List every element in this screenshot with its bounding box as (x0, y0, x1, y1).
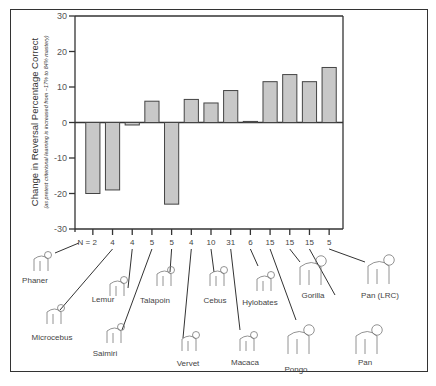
n-label: 5 (150, 238, 155, 247)
primate-icon (182, 332, 200, 352)
n-label: 10 (207, 238, 216, 247)
y-tick-label: 30 (57, 11, 67, 21)
n-label: 4 (189, 238, 194, 247)
n-label: 15 (305, 238, 314, 247)
species-label: Pan (LRC) (361, 291, 399, 300)
n-label: 31 (226, 238, 235, 247)
bar-talapoin (165, 123, 179, 205)
leader-line (211, 249, 214, 272)
primate-icon (356, 325, 382, 354)
bar-pan (302, 82, 316, 123)
primate-icon (240, 332, 258, 352)
bar-pan-lrc- (322, 67, 336, 122)
primate-icon (210, 267, 228, 287)
x-ticks: N = 244554103161515155 (78, 229, 332, 247)
bar-vervet (184, 99, 198, 122)
species-label: Pan (358, 358, 372, 367)
species-label: Gorilla (301, 291, 325, 300)
bar-macaca (224, 91, 238, 123)
y-tick-label: -20 (54, 189, 67, 199)
bar-gorilla (283, 75, 297, 123)
primate-icon (300, 256, 326, 285)
bar-hylobates (243, 121, 257, 122)
leader-line (55, 243, 79, 253)
leader-line (270, 249, 296, 320)
y-tick-label: -30 (54, 224, 67, 234)
n-label: 5 (169, 238, 174, 247)
leader-line (183, 249, 191, 338)
bar-pongo (263, 82, 277, 123)
bar-cebus (204, 103, 218, 123)
species-labels: PhanerMicrocebusLemurSaimiriTalapoinVerv… (22, 276, 399, 374)
bar-phaner (86, 123, 100, 194)
species-label: Lemur (92, 295, 115, 304)
species-label: Vervet (177, 359, 200, 368)
primate-icon (368, 255, 394, 284)
species-label: Microcebus (32, 333, 73, 342)
bar-saimiri (145, 101, 159, 122)
leader-line (128, 249, 132, 288)
primate-icon (288, 325, 314, 354)
bar-chart: 3020100-10-20-30 N = 244554103161515155 … (0, 0, 436, 386)
n-label: 6 (248, 238, 253, 247)
n-label: 15 (285, 238, 294, 247)
n-label: 4 (130, 238, 135, 247)
y-tick-label: 10 (57, 82, 67, 92)
species-label: Pongo (284, 365, 308, 374)
species-label: Saimiri (93, 349, 118, 358)
bar-microcebus (105, 123, 119, 190)
species-label: Macaca (231, 358, 260, 367)
n-label: 5 (327, 238, 332, 247)
y-axis-subtitle: (as pretest criterional learning is incr… (43, 35, 49, 208)
leader-line (290, 249, 300, 262)
species-label: Cebus (203, 296, 226, 305)
species-label: Hylobates (242, 298, 278, 307)
n-label: 4 (110, 238, 115, 247)
primate-icon (257, 272, 275, 292)
y-tick-label: -10 (54, 153, 67, 163)
leader-line (170, 249, 172, 272)
species-label: Talapoin (140, 296, 170, 305)
primate-icon (34, 252, 52, 272)
y-tick-label: 0 (62, 118, 67, 128)
y-axis-title: Change in Reversal Percentage Correct (29, 37, 40, 206)
leader-line (329, 249, 365, 262)
n-label: N = 2 (78, 238, 98, 247)
leader-line (231, 249, 240, 330)
primate-icon (110, 277, 128, 297)
y-tick-label: 20 (57, 47, 67, 57)
leader-line (122, 249, 152, 330)
bars (86, 67, 336, 204)
n-label: 15 (266, 238, 275, 247)
species-label: Phaner (22, 276, 48, 285)
primate-icon (157, 267, 175, 287)
leader-line (250, 249, 258, 266)
primate-icon (107, 324, 125, 344)
bar-lemur (125, 123, 139, 125)
